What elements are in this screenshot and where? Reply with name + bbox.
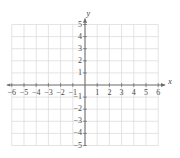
- y-tick-label: −3: [66, 117, 82, 125]
- coordinate-grid-svg: [0, 0, 180, 158]
- y-tick-label: −4: [66, 129, 82, 137]
- x-axis-label: x: [168, 78, 172, 86]
- y-tick-label: −1: [66, 93, 82, 101]
- y-tick-label: −2: [66, 105, 82, 113]
- y-axis-label: y: [87, 10, 91, 18]
- y-tick-label: 1: [66, 69, 82, 77]
- x-axis-arrow-positive: [161, 83, 165, 87]
- y-tick-label: 2: [66, 57, 82, 65]
- y-tick-label: 3: [66, 45, 82, 53]
- y-tick-label: 5: [66, 21, 82, 29]
- y-tick-label: 4: [66, 33, 82, 41]
- x-axis-arrow-negative: [7, 83, 10, 86]
- axis-lines: [7, 19, 165, 146]
- axis-arrowheads: [7, 19, 165, 88]
- coordinate-plane-figure: −6−5−4−3−2−1123456 54321−1−2−3−4−5 x y: [0, 0, 180, 158]
- y-tick-label: −5: [66, 142, 82, 150]
- x-tick-label: 6: [150, 89, 166, 97]
- y-axis-arrow-positive: [83, 19, 87, 23]
